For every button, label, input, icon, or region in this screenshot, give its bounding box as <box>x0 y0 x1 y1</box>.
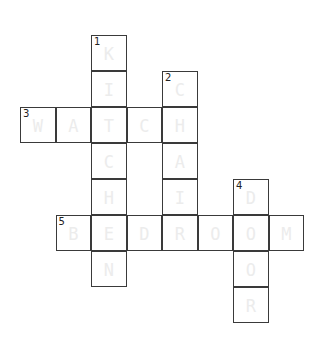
crossword-cell[interactable]: O <box>233 251 269 287</box>
cell-letter: O <box>234 260 268 280</box>
crossword-cell[interactable]: M <box>269 215 305 251</box>
crossword-cell[interactable]: D <box>127 215 163 251</box>
cell-letter: C <box>163 80 197 100</box>
cell-letter: B <box>57 224 91 244</box>
crossword-cell[interactable]: 3W <box>20 107 56 143</box>
crossword-cell[interactable]: R <box>233 287 269 323</box>
crossword-cell[interactable]: I <box>162 179 198 215</box>
crossword-cell[interactable]: T <box>91 107 127 143</box>
cell-letter: D <box>128 224 162 244</box>
cell-letter: A <box>57 116 91 136</box>
cell-letter: C <box>92 152 126 172</box>
crossword-cell[interactable]: H <box>91 179 127 215</box>
cell-letter: R <box>163 224 197 244</box>
cell-letter: E <box>92 224 126 244</box>
crossword-cell[interactable]: O <box>198 215 234 251</box>
cell-letter: A <box>163 152 197 172</box>
cell-letter: K <box>92 44 126 64</box>
crossword-cell[interactable]: A <box>162 143 198 179</box>
crossword-cell[interactable]: 4D <box>233 179 269 215</box>
cell-letter: H <box>163 116 197 136</box>
crossword-grid: 1KITCHEN2CHAIR3WAC4DOOR5BDOM <box>0 0 324 345</box>
crossword-cell[interactable]: C <box>91 143 127 179</box>
cell-letter: C <box>128 116 162 136</box>
crossword-cell[interactable]: H <box>162 107 198 143</box>
cell-letter: O <box>199 224 233 244</box>
crossword-cell[interactable]: O <box>233 215 269 251</box>
cell-letter: D <box>234 188 268 208</box>
crossword-cell[interactable]: 5B <box>56 215 92 251</box>
cell-letter: H <box>92 188 126 208</box>
cell-letter: I <box>92 80 126 100</box>
cell-letter: N <box>92 260 126 280</box>
crossword-cell[interactable]: A <box>56 107 92 143</box>
cell-letter: R <box>234 296 268 316</box>
cell-letter: T <box>92 116 126 136</box>
crossword-cell[interactable]: 1K <box>91 35 127 71</box>
cell-letter: W <box>21 116 55 136</box>
crossword-cell[interactable]: 2C <box>162 71 198 107</box>
cell-letter: I <box>163 188 197 208</box>
crossword-cell[interactable]: C <box>127 107 163 143</box>
crossword-cell[interactable]: R <box>162 215 198 251</box>
cell-letter: M <box>270 224 304 244</box>
crossword-cell[interactable]: N <box>91 251 127 287</box>
cell-letter: O <box>234 224 268 244</box>
crossword-cell[interactable]: I <box>91 71 127 107</box>
crossword-cell[interactable]: E <box>91 215 127 251</box>
